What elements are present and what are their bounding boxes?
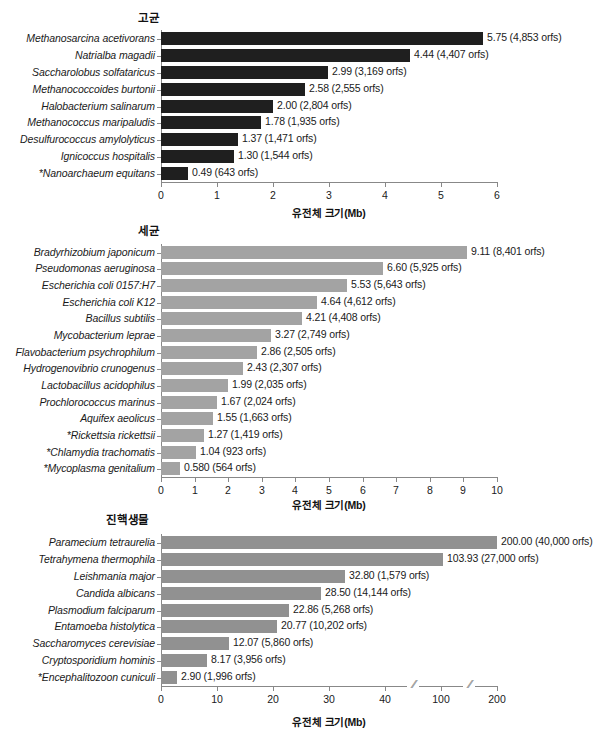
bar-row: 28.50 (14,144 orfs)Candida albicans — [161, 587, 497, 600]
bar-row: 2.00 (2,804 orfs)Halobacterium salinarum — [161, 100, 497, 113]
bar-value-label: 1.55 (1,663 orfs) — [217, 411, 292, 423]
x-axis-tick — [497, 477, 498, 482]
bar-value-label: 1.67 (2,024 orfs) — [221, 395, 296, 407]
bar-value-label: 8.17 (3,956 orfs) — [211, 653, 286, 665]
bar-row: 2.58 (2,555 orfs)Methanococcoides burton… — [161, 83, 497, 96]
bar-row: 8.17 (3,956 orfs)Cryptosporidium hominis — [161, 654, 497, 667]
category-label: Candida albicans — [0, 587, 155, 599]
x-axis-tick — [273, 182, 274, 187]
x-axis-tick-label: 0 — [158, 484, 164, 496]
category-label: *Rickettsia rickettsii — [0, 429, 155, 441]
plot-area-bacteria: 9.11 (8,401 orfs)Bradyrhizobium japonicu… — [161, 244, 497, 477]
bar-row: 9.11 (8,401 orfs)Bradyrhizobium japonicu… — [161, 246, 497, 259]
x-axis-tick-label: 0 — [158, 693, 164, 705]
panel-title-bacteria: 세균 — [138, 222, 160, 238]
bar-row: 1.67 (2,024 orfs)Prochlorococcus marinus — [161, 396, 497, 409]
bar — [161, 133, 238, 146]
bar-value-label: 2.00 (2,804 orfs) — [277, 99, 352, 111]
bar-value-label: 2.86 (2,505 orfs) — [261, 345, 336, 357]
category-label: Hydrogenovibrio crunogenus — [0, 362, 155, 374]
x-axis-tick — [363, 477, 364, 482]
bar — [161, 637, 229, 650]
bar — [161, 362, 243, 375]
bar-row: 200.00 (40,000 orfs)Paramecium tetraurel… — [161, 536, 497, 549]
x-axis-tick-label: 4 — [292, 484, 298, 496]
category-label: Methanococcus maripaludis — [0, 116, 155, 128]
bar-value-label: 1.04 (923 orfs) — [200, 445, 266, 457]
bar-value-label: 1.37 (1,471 orfs) — [242, 132, 317, 144]
category-label: *Nanoarchaeum equitans — [0, 167, 155, 179]
bar — [161, 536, 497, 549]
x-axis-tick — [217, 182, 218, 187]
x-axis-tick-label: 0 — [158, 189, 164, 201]
category-label: Flavobacterium psychrophilum — [0, 346, 155, 358]
bar — [161, 570, 345, 583]
category-label: Natrialba magadii — [0, 49, 155, 61]
x-axis-tick-label: 40 — [379, 693, 391, 705]
bar — [161, 279, 347, 292]
x-axis-tick-label: 100 — [432, 693, 450, 705]
x-axis-tick-label: 2 — [270, 189, 276, 201]
category-label: Aquifex aeolicus — [0, 412, 155, 424]
bar-row: 12.07 (5,860 orfs)Saccharomyces cerevisi… — [161, 637, 497, 650]
bar-row: 1.04 (923 orfs)*Chlamydia trachomatis — [161, 446, 497, 459]
x-axis-tick-label: 6 — [360, 484, 366, 496]
plot-area-eukaryote: 200.00 (40,000 orfs)Paramecium tetraurel… — [161, 534, 497, 686]
x-axis-tick — [195, 477, 196, 482]
bar — [161, 312, 302, 325]
x-axis-tick — [430, 477, 431, 482]
bar-value-label: 2.99 (3,169 orfs) — [332, 65, 407, 77]
bar-row: 103.93 (27,000 orfs)Tetrahymena thermoph… — [161, 553, 497, 566]
category-label: *Encephalitozoon cuniculi — [0, 671, 155, 683]
bar-value-label: 103.93 (27,000 orfs) — [447, 552, 539, 564]
bar-row: 6.60 (5,925 orfs)Pseudomonas aeruginosa — [161, 262, 497, 275]
bar-row: 20.77 (10,202 orfs)Entamoeba histolytica — [161, 620, 497, 633]
bar — [161, 462, 180, 475]
x-axis-tick — [329, 686, 330, 691]
bar-value-label: 200.00 (40,000 orfs) — [501, 535, 593, 547]
category-label: Escherichia coli K12 — [0, 296, 155, 308]
bar-value-label: 4.44 (4,407 orfs) — [414, 48, 489, 60]
x-axis-tick-label: 1 — [192, 484, 198, 496]
x-axis-tick — [217, 686, 218, 691]
x-axis-tick-label: 200 — [488, 693, 506, 705]
bar-row: 22.86 (5,268 orfs)Plasmodium falciparum — [161, 604, 497, 617]
x-axis-tick-label: 6 — [494, 189, 500, 201]
bar — [161, 412, 213, 425]
bar — [161, 346, 257, 359]
x-axis-tick-label: 8 — [427, 484, 433, 496]
bar-value-label: 4.21 (4,408 orfs) — [306, 311, 381, 323]
bar — [161, 671, 177, 684]
bar — [161, 446, 196, 459]
bar — [161, 167, 188, 180]
x-axis-tick-label: 20 — [267, 693, 279, 705]
category-label: Escherichia coli 0157:H7 — [0, 279, 155, 291]
bar-value-label: 4.64 (4,612 orfs) — [321, 295, 396, 307]
x-axis-tick — [441, 182, 442, 187]
category-label: Bacillus subtilis — [0, 312, 155, 324]
bar-value-label: 2.58 (2,555 orfs) — [309, 82, 384, 94]
category-label: Pseudomonas aeruginosa — [0, 262, 155, 274]
bar — [161, 66, 328, 79]
bar-value-label: 5.53 (5,643 orfs) — [351, 278, 426, 290]
bar-row: 1.78 (1,935 orfs)Methanococcus maripalud… — [161, 116, 497, 129]
category-label: Ignicoccus hospitalis — [0, 150, 155, 162]
category-label: Plasmodium falciparum — [0, 604, 155, 616]
bar-row: 5.75 (4,853 orfs)Methanosarcina acetivor… — [161, 32, 497, 45]
x-axis-tick — [161, 686, 162, 691]
bar-value-label: 1.27 (1,419 orfs) — [208, 428, 283, 440]
x-axis-tick — [396, 477, 397, 482]
bar — [161, 620, 277, 633]
bar-value-label: 5.75 (4,853 orfs) — [487, 31, 562, 43]
bar-row: 0.580 (564 orfs)*Mycoplasma genitalium — [161, 462, 497, 475]
bar-row: 32.80 (1,579 orfs)Leishmania major — [161, 570, 497, 583]
bar-row: 4.64 (4,612 orfs)Escherichia coli K12 — [161, 296, 497, 309]
category-label: *Mycoplasma genitalium — [0, 462, 155, 474]
bar-value-label: 0.580 (564 orfs) — [184, 461, 256, 473]
x-axis-tick — [228, 477, 229, 482]
panel-title-eukaryote: 진핵생물 — [106, 511, 149, 527]
bar-row: 4.44 (4,407 orfs)Natrialba magadii — [161, 49, 497, 62]
category-label: Entamoeba histolytica — [0, 620, 155, 632]
category-label: Paramecium tetraurelia — [0, 536, 155, 548]
bar-row: 2.99 (3,169 orfs)Saccharolobus solfatari… — [161, 66, 497, 79]
